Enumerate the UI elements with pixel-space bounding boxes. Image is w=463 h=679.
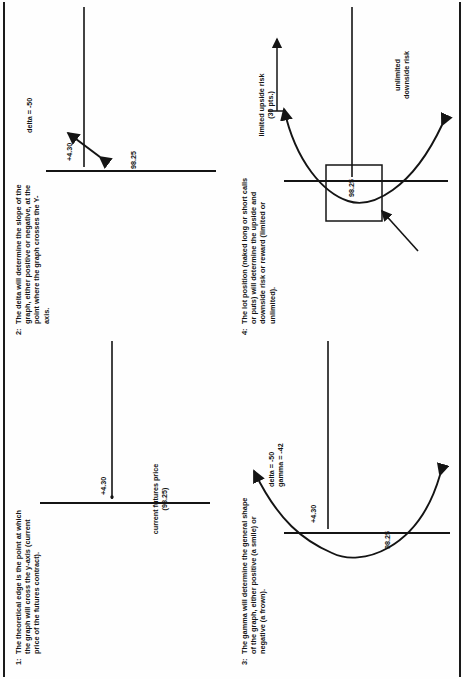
panel-3-edge-label: +4.30: [310, 505, 319, 523]
edge-point-marker: [110, 495, 113, 498]
panel-2-price-label: 98.25: [130, 151, 139, 169]
panel-3-caption-text: The gamma will determine the general sha…: [240, 490, 268, 654]
panel-4-caption: 4: The lot position (naked long or short…: [240, 175, 277, 335]
panel-3-gamma-label: gamma = -42: [276, 443, 285, 487]
panel-4-upside-line2: (30 pts.): [266, 91, 275, 119]
panel-1-caption-text: The theoretical edge is the point at whi…: [14, 505, 42, 654]
panel-4-lot-position-risk: 4: The lot position (naked long or short…: [232, 7, 460, 339]
panel-3-gamma-shape: 3: The gamma will determine the general …: [232, 341, 460, 671]
panel-2-delta-slope: 2: The delta will determine the slope of…: [4, 7, 228, 339]
panel-1-number: 1:: [14, 654, 23, 665]
panel-4-caption-text: The lot position (naked long or short ca…: [240, 175, 277, 324]
panel-2-edge-label: +4.30: [66, 143, 75, 161]
panel-1-caption: 1: The theoretical edge is the point at …: [14, 505, 42, 665]
panel-2-caption-text: The delta will determine the slope of th…: [14, 183, 51, 324]
panel-4-downside-line2: downside risk: [402, 51, 411, 99]
panel-4-price-label: 98.25: [348, 179, 357, 197]
panel-3-greeks-label: delta = -50 gamma = -42: [268, 443, 285, 487]
panel-3-price-label: 98.25: [384, 531, 393, 549]
panel-1-price-label: current futures price (98.25): [152, 457, 169, 541]
panel-4-downside-label: unlimited downside risk: [394, 35, 411, 115]
panel-3-number: 3:: [240, 654, 249, 665]
panel-1-edge-label: +4.30: [100, 477, 109, 495]
panel-3-caption: 3: The gamma will determine the general …: [240, 490, 268, 665]
panel-4-upside-label: limited upside risk (30 pts.): [258, 57, 275, 153]
panel-4-number: 4:: [240, 324, 249, 335]
scanned-page: 1: The theoretical edge is the point at …: [0, 0, 463, 679]
panel-2-number: 2:: [14, 324, 23, 335]
panel-1-theoretical-edge: 1: The theoretical edge is the point at …: [4, 341, 228, 671]
panel-2-delta-label: delta = -50: [26, 98, 35, 133]
payoff-curve: [284, 109, 442, 203]
detail-pointer-arrow: [382, 211, 418, 251]
panel-2-caption: 2: The delta will determine the slope of…: [14, 183, 51, 335]
rotated-content: 1: The theoretical edge is the point at …: [0, 0, 463, 679]
panel-1-price-line2: (98.25): [160, 488, 169, 511]
